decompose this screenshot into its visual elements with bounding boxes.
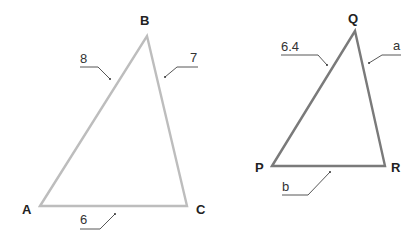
vertex-label-r: R <box>391 160 401 175</box>
leader-dot-pq <box>326 64 328 66</box>
leader-line-bc <box>165 67 198 77</box>
side-label-pr: b <box>282 179 289 194</box>
leader-line-qr <box>369 55 401 63</box>
triangle-abc <box>40 36 187 206</box>
side-label-qr: a <box>393 38 401 53</box>
vertex-label-a: A <box>22 202 32 217</box>
side-label-ac: 6 <box>80 212 87 227</box>
leader-dot-pr <box>329 171 331 173</box>
vertex-label-b: B <box>140 13 149 28</box>
leader-line-ab <box>80 67 110 79</box>
leader-line-pq <box>281 55 327 65</box>
similar-triangles-diagram: A B C 8 7 6 P Q R 6.4 a b <box>0 0 420 241</box>
vertex-label-q: Q <box>348 11 358 26</box>
side-label-bc: 7 <box>190 50 197 65</box>
leader-dot-bc <box>164 76 166 78</box>
vertex-label-p: P <box>255 160 264 175</box>
side-label-pq: 6.4 <box>281 39 299 54</box>
side-label-ab: 8 <box>80 51 87 66</box>
leader-dot-ac <box>114 213 116 215</box>
leader-dot-ab <box>109 78 111 80</box>
vertex-label-c: C <box>196 202 206 217</box>
leader-dot-qr <box>368 62 370 64</box>
